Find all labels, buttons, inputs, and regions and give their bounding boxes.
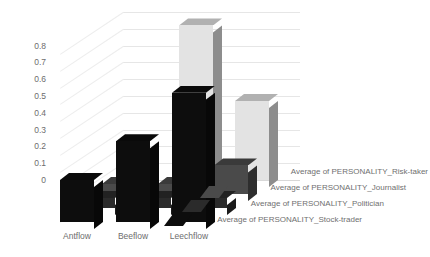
bar-side-face: [227, 198, 236, 215]
legend-label: Average of PERSONALITY_Stock-trader: [217, 216, 362, 224]
chart-3d-clustered-column: 0.80.70.60.50.40.30.20.10 AntflowBeeflow…: [0, 0, 430, 257]
bar-side-face: [94, 180, 103, 229]
bar-side-face: [269, 101, 278, 187]
bar-column: [60, 180, 94, 222]
bar-front-face: [60, 180, 94, 222]
x-axis-tick-label: Leechflow: [164, 232, 214, 241]
x-axis-tick-label: Antflow: [52, 232, 102, 241]
legend-label: Average of PERSONALITY_Journalist: [271, 184, 406, 192]
bar-top-face: [60, 173, 103, 180]
legend-label: Average of PERSONALITY_Risk-taker: [291, 168, 428, 176]
gridline: [123, 12, 300, 13]
x-axis-tick-label: Beeflow: [108, 232, 158, 241]
legend-label: Average of PERSONALITY_Politician: [251, 200, 384, 208]
bar-side-face: [206, 93, 215, 229]
plot-area: AntflowBeeflowLeechflow: [0, 0, 430, 257]
bar-side-face: [150, 141, 159, 229]
bar-top-face: [179, 18, 222, 25]
bar-top-face: [116, 134, 159, 141]
bar-column: [116, 141, 150, 222]
bar-front-face: [116, 141, 150, 222]
